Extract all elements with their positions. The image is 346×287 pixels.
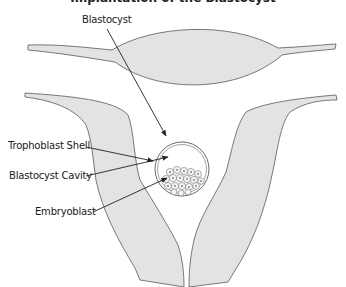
label-trophoblast-shell: Trophoblast Shell — [8, 140, 90, 151]
left-uterine-wall — [25, 93, 184, 287]
right-uterine-wall — [189, 95, 337, 287]
label-blastocyst-cavity: Blastocyst Cavity — [9, 170, 92, 181]
label-embryoblast: Embryoblast — [35, 206, 96, 217]
label-blastocyst: Blastocyst — [82, 14, 132, 25]
upper-uterine-lens — [28, 29, 336, 84]
